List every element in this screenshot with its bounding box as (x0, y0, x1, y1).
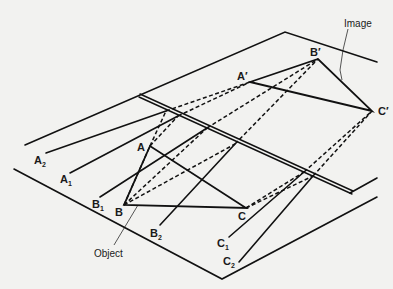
label-B: B (115, 206, 123, 218)
label-C-prime: C′ (378, 105, 389, 117)
label-A2: A2 (34, 154, 46, 168)
label-B1: B1 (92, 198, 104, 212)
lower-plane-right-edge (350, 178, 377, 193)
label-C: C (238, 210, 246, 222)
sight-line-B2 (160, 144, 235, 225)
label-B2: B2 (150, 227, 162, 241)
image-pointer-line (340, 29, 348, 80)
label-C2: C2 (223, 255, 235, 269)
upper-plane-outline (25, 32, 377, 145)
image-triangle (250, 59, 372, 111)
label-A1: A1 (60, 173, 72, 187)
object-caption: Object (94, 248, 123, 259)
label-B-prime: B′ (310, 46, 321, 58)
sight-line-A1 (70, 116, 178, 173)
label-A: A (137, 141, 145, 153)
label-A-prime: A′ (237, 70, 248, 82)
image-caption: Image (344, 18, 372, 29)
label-C1: C1 (217, 237, 229, 251)
mirror-diagram: Image Object A B C A′ B′ C′ A2 A1 B1 B2 … (0, 0, 393, 289)
